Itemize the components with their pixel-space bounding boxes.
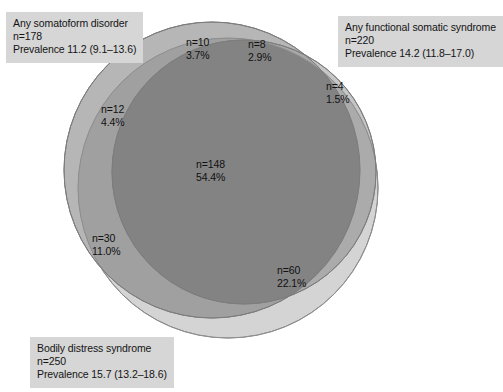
set-label-any-functional-somatic-syndrome: Any functional somatic syndrome n=220 Pr… bbox=[338, 16, 503, 67]
region-pct: 1.5% bbox=[326, 93, 350, 106]
region-n: n=10 bbox=[186, 36, 210, 49]
set-label-prevalence: Prevalence 11.2 (9.1–13.6) bbox=[13, 43, 136, 56]
region-label-asd-bds: n=12 4.4% bbox=[101, 103, 125, 128]
region-n: n=60 bbox=[277, 264, 306, 277]
set-label-name: Any functional somatic syndrome bbox=[345, 21, 496, 34]
region-pct: 4.4% bbox=[101, 116, 125, 129]
set-label-prevalence: Prevalence 15.7 (13.2–18.6) bbox=[37, 368, 167, 381]
set-label-n: n=250 bbox=[37, 355, 167, 368]
region-pct: 11.0% bbox=[92, 245, 121, 258]
region-n: n=30 bbox=[92, 232, 121, 245]
set-label-n: n=220 bbox=[345, 34, 496, 47]
region-label-bds-afss: n=60 22.1% bbox=[277, 264, 306, 289]
set-label-name: Any somatoform disorder bbox=[13, 17, 136, 30]
region-label-all-three: n=148 54.4% bbox=[196, 158, 225, 183]
region-pct: 22.1% bbox=[277, 277, 306, 290]
set-label-any-somatoform-disorder: Any somatoform disorder n=178 Prevalence… bbox=[6, 12, 143, 63]
region-n: n=4 bbox=[326, 80, 350, 93]
region-n: n=8 bbox=[248, 38, 272, 51]
region-label-asd-afss: n=8 2.9% bbox=[248, 38, 272, 63]
region-pct: 2.9% bbox=[248, 51, 272, 64]
set-label-bodily-distress-syndrome: Bodily distress syndrome n=250 Prevalenc… bbox=[30, 337, 174, 388]
region-n: n=12 bbox=[101, 103, 125, 116]
region-pct: 3.7% bbox=[186, 49, 210, 62]
set-label-prevalence: Prevalence 14.2 (11.8–17.0) bbox=[345, 47, 496, 60]
region-label-afss-only: n=4 1.5% bbox=[326, 80, 350, 105]
region-label-bds-only: n=30 11.0% bbox=[92, 232, 121, 257]
set-label-n: n=178 bbox=[13, 30, 136, 43]
set-label-name: Bodily distress syndrome bbox=[37, 342, 167, 355]
region-n: n=148 bbox=[196, 158, 225, 171]
region-label-asd-only: n=10 3.7% bbox=[186, 36, 210, 61]
region-pct: 54.4% bbox=[196, 171, 225, 184]
